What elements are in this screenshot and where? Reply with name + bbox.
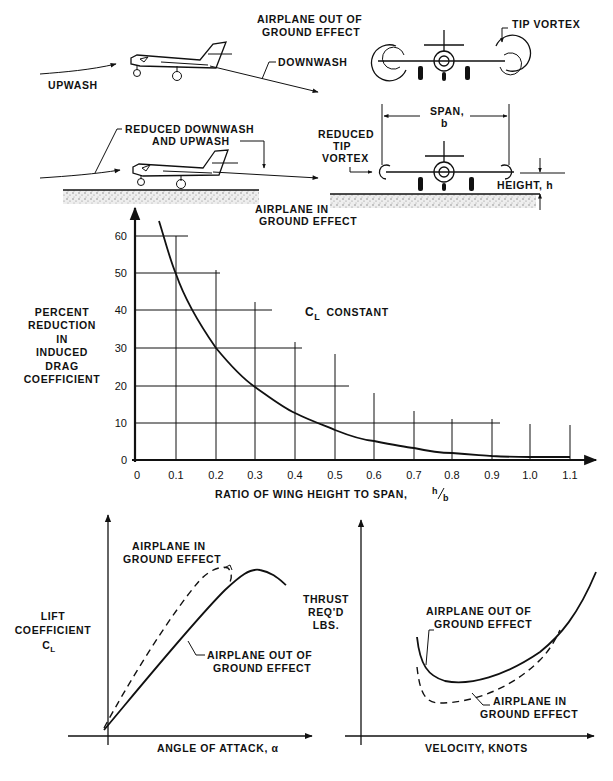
reduced-tip-vortex-label-3: VORTEX <box>322 152 369 164</box>
cl-in-ground-effect-label-1: AIRPLANE IN <box>132 540 206 552</box>
svg-text:40: 40 <box>115 304 127 316</box>
thrust-out-of-ground-effect-label-2: GROUND EFFECT <box>434 618 532 630</box>
upwash-arrow <box>40 64 116 74</box>
downwash-leader <box>262 62 276 79</box>
svg-text:h: h <box>432 486 438 496</box>
svg-text:20: 20 <box>115 380 127 392</box>
reduced-downwash-label-1: REDUCED DOWNWASH <box>125 123 254 135</box>
cl-y-label-1: LIFT <box>41 610 66 622</box>
svg-text:b: b <box>443 493 449 503</box>
thrust-out-of-ground-effect-label-1: AIRPLANE OUT OF <box>426 605 531 617</box>
cl-in-ground-effect-curve <box>104 567 231 728</box>
chart-grid <box>135 236 570 460</box>
svg-text:30: 30 <box>115 342 127 354</box>
svg-text:0: 0 <box>134 469 140 481</box>
svg-text:REDUCTION: REDUCTION <box>28 319 96 331</box>
svg-text:DRAG: DRAG <box>45 360 78 372</box>
airplane-side-in-ground-icon <box>133 150 238 189</box>
span-label-2: b <box>441 117 448 129</box>
in-ground-effect-title-1: AIRPLANE IN <box>255 203 329 215</box>
downwash-arrow <box>210 66 318 92</box>
svg-text:0.7: 0.7 <box>406 469 421 481</box>
in-ground-effect-title-2: GROUND EFFECT <box>259 215 357 227</box>
downwash-label: DOWNWASH <box>278 56 348 68</box>
reduced-upwash-arrow <box>40 170 120 178</box>
tip-vortex-left-icon <box>372 45 406 81</box>
thrust-in-ground-effect-label-2: GROUND EFFECT <box>480 708 578 720</box>
svg-text:0.8: 0.8 <box>444 469 459 481</box>
y-axis-label: PERCENT REDUCTION IN INDUCED DRAG COEFFI… <box>24 306 101 385</box>
reduced-downwash-arrow <box>213 172 318 178</box>
height-label: HEIGHT, h <box>497 179 553 191</box>
tip-vortex-leader <box>502 28 508 42</box>
reduced-downwash-label-2: AND UPWASH <box>152 135 230 147</box>
svg-text:0.9: 0.9 <box>484 469 499 481</box>
cl-constant-annotation: CLCONSTANT <box>305 305 389 322</box>
thrust-y-label-2: REQ'D <box>308 606 344 618</box>
ground-surface-left <box>63 190 259 204</box>
ground-effect-figure: UPWASH DOWNWASH AIRPLANE OUT OF GROUND E… <box>0 0 613 781</box>
svg-text:60: 60 <box>115 230 127 242</box>
upwash-label: UPWASH <box>48 79 98 91</box>
x-tick-labels: 0 0.1 0.2 0.3 0.4 0.5 0.6 0.7 0.8 0.9 1.… <box>134 469 578 481</box>
thrust-required-chart: AIRPLANE OUT OF GROUND EFFECT AIRPLANE I… <box>303 520 596 754</box>
induced-drag-reduction-chart: 0 10 20 30 40 50 60 0 0.1 0.2 0.3 0.4 0.… <box>24 208 596 503</box>
svg-text:0.4: 0.4 <box>287 469 302 481</box>
cl-y-label-3: CL <box>42 639 56 654</box>
cl-out-of-ground-effect-label-1: AIRPLANE OUT OF <box>207 649 312 661</box>
cl-in-ground-effect-label-2: GROUND EFFECT <box>123 553 221 565</box>
x-axis-label: RATIO OF WING HEIGHT TO SPAN, h b <box>215 486 449 503</box>
lift-coefficient-chart: AIRPLANE IN GROUND EFFECT AIRPLANE OUT O… <box>15 515 313 754</box>
airplane-side-icon <box>131 42 232 81</box>
front-view-out-of-ground-effect: TIP VORTEX <box>372 18 581 81</box>
tip-vortex-right-icon <box>496 35 530 75</box>
svg-text:PERCENT: PERCENT <box>35 306 89 318</box>
svg-text:RATIO OF WING HEIGHT TO SPAN,: RATIO OF WING HEIGHT TO SPAN, <box>215 488 407 500</box>
span-label-1: SPAN, <box>430 105 464 117</box>
thrust-y-label-1: THRUST <box>303 593 349 605</box>
out-of-ground-effect-title-1: AIRPLANE OUT OF <box>257 13 362 25</box>
svg-text:0.3: 0.3 <box>247 469 262 481</box>
y-tick-labels: 0 10 20 30 40 50 60 <box>115 230 127 466</box>
svg-text:0.6: 0.6 <box>366 469 381 481</box>
front-view-in-ground-effect: SPAN, b REDUCED TIP VORTEX HEIGHT, h AIR… <box>255 104 565 227</box>
thrust-in-ground-effect-curve <box>417 630 560 703</box>
svg-text:COEFFICIENT: COEFFICIENT <box>24 373 101 385</box>
svg-text:1.1: 1.1 <box>562 469 577 481</box>
thrust-y-label-3: LBS. <box>313 619 339 631</box>
thrust-x-label: VELOCITY, KNOTS <box>425 742 528 754</box>
svg-text:0: 0 <box>121 454 127 466</box>
svg-text:1.0: 1.0 <box>522 469 537 481</box>
cl-out-of-ground-effect-label-2: GROUND EFFECT <box>213 662 311 674</box>
svg-text:0.5: 0.5 <box>327 469 342 481</box>
reduced-tip-vortex-label-2: TIP <box>333 140 351 152</box>
drag-reduction-curve <box>159 221 570 457</box>
cl-y-label-2: COEFFICIENT <box>15 624 92 636</box>
ground-surface-right <box>330 194 536 208</box>
reduced-tip-vortex-label-1: REDUCED <box>318 128 374 140</box>
reduced-leader-right <box>240 141 264 168</box>
svg-text:IN: IN <box>56 333 68 345</box>
svg-text:INDUCED: INDUCED <box>36 346 88 358</box>
svg-text:50: 50 <box>115 267 127 279</box>
side-view-out-of-ground-effect: UPWASH DOWNWASH AIRPLANE OUT OF GROUND E… <box>40 13 362 92</box>
out-of-ground-effect-title-2: GROUND EFFECT <box>262 26 360 38</box>
thrust-in-ground-effect-label-1: AIRPLANE IN <box>493 695 567 707</box>
cl-x-label: ANGLE OF ATTACK, α <box>157 742 278 754</box>
side-view-in-ground-effect: REDUCED DOWNWASH AND UPWASH <box>40 123 318 204</box>
reduced-leader-left <box>95 129 122 173</box>
svg-text:10: 10 <box>115 417 127 429</box>
svg-text:0.1: 0.1 <box>168 469 183 481</box>
tip-vortex-label: TIP VORTEX <box>512 18 580 30</box>
svg-text:0.2: 0.2 <box>208 469 223 481</box>
